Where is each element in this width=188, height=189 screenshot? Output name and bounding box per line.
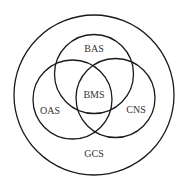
label-cns: CNS — [126, 104, 145, 115]
label-gcs: GCS — [84, 148, 103, 159]
venn-diagram: BAS OAS CNS BMS GCS — [0, 0, 188, 189]
label-bas: BAS — [84, 43, 103, 54]
label-bms: BMS — [83, 89, 104, 100]
label-oas: OAS — [40, 105, 60, 116]
